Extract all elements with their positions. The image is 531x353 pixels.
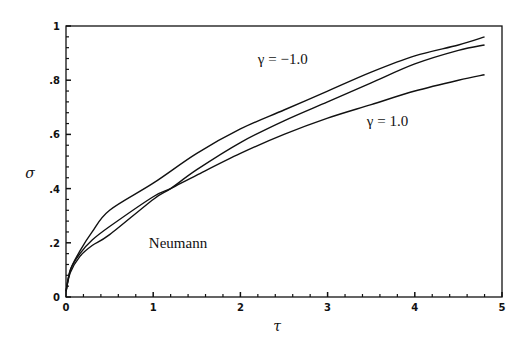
line-chart: 012345 0.2.4.6.81 γ = −1.0γ = 1.0Neumann… xyxy=(0,0,531,353)
y-tick-label: .4 xyxy=(49,184,60,195)
x-tick-label: 3 xyxy=(324,302,331,313)
x-axis: 012345 xyxy=(63,292,506,313)
x-tick-label: 2 xyxy=(237,302,244,313)
x-axis-label: τ xyxy=(273,318,281,334)
annotation-label: γ = 1.0 xyxy=(366,113,408,129)
y-axis-label: σ xyxy=(25,165,35,181)
annotation-label: γ = −1.0 xyxy=(257,51,308,67)
x-tick-label: 4 xyxy=(411,302,418,313)
series-line-1-0 xyxy=(66,37,485,292)
series-lines xyxy=(66,37,485,292)
x-tick-label: 1 xyxy=(150,302,157,313)
y-tick-label: .6 xyxy=(49,129,60,140)
annotations: γ = −1.0γ = 1.0Neumann xyxy=(149,51,408,251)
y-tick-label: 1 xyxy=(53,21,60,32)
x-tick-label: 5 xyxy=(499,302,506,313)
series-line-neumann xyxy=(66,45,485,292)
x-tick-label: 0 xyxy=(63,302,70,313)
series-line-1-0 xyxy=(66,75,485,292)
y-tick-label: 0 xyxy=(53,292,60,303)
y-axis: 0.2.4.6.81 xyxy=(49,21,71,303)
annotation-label: Neumann xyxy=(149,235,208,251)
y-tick-label: .2 xyxy=(49,238,60,249)
y-tick-label: .8 xyxy=(49,75,60,86)
